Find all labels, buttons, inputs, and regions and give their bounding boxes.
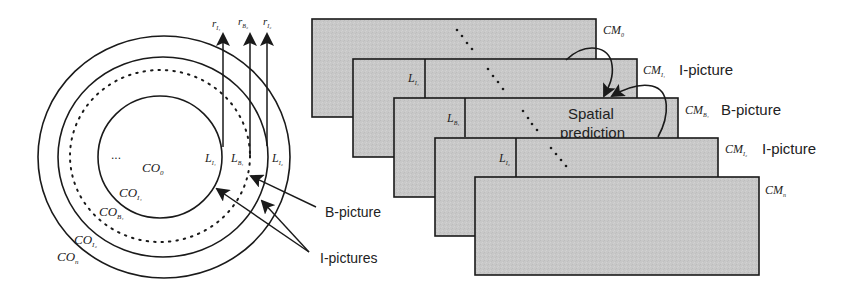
stacked-frames-panel: LI₁ LB₁ Spatial prediction LI₂	[312, 19, 816, 275]
frame-label-cm-0: CM0	[603, 23, 624, 38]
ring-label-co-n: COn	[57, 249, 79, 266]
ring-label-co-0: CO0	[142, 160, 164, 177]
ellipsis-label: ...	[111, 148, 121, 162]
i-pictures-callout-label: I-pictures	[320, 250, 378, 266]
i-pictures-callout-arrow-1	[217, 189, 309, 252]
ring-label-co-i2: COI₂	[74, 232, 97, 249]
ring-label-co-b1: COB₁	[99, 204, 124, 221]
spatial-prediction-label-line1: Spatial	[568, 105, 614, 122]
rate-label-r-i1: rI₁	[212, 17, 220, 31]
frame-type-label-b-picture: B-picture	[721, 101, 781, 118]
rate-label-r-b2: rB₂	[238, 15, 248, 29]
i-pictures-callout-arrow-2	[262, 201, 309, 252]
ring-label-co-i1: COI₁	[119, 185, 142, 202]
frame-type-label-i-picture-1: I-picture	[679, 61, 733, 78]
layer-label-l-b1: LB₁	[230, 151, 243, 166]
b-picture-callout-label: B-picture	[325, 204, 381, 220]
pyramid-coding-diagram: ... CO0 COI₁ COB₁ COI₂ COn rI₁ rB₂ rI₂ L…	[0, 0, 852, 295]
rate-label-r-i2: rI₂	[263, 15, 271, 29]
frame-label-cm-i1: CMI₁	[643, 63, 665, 78]
layer-label-l-i1: LI₁	[204, 151, 216, 166]
layer-label-l-i2: LI₂	[271, 151, 283, 166]
frame-label-cm-n: CMn	[765, 183, 786, 198]
frame-label-cm-i2: CMI₂	[725, 142, 747, 157]
frame-label-cm-b1: CMB₁	[685, 103, 709, 118]
frame-type-label-i-picture-2: I-picture	[762, 140, 816, 157]
frame-cm-n	[475, 177, 759, 275]
